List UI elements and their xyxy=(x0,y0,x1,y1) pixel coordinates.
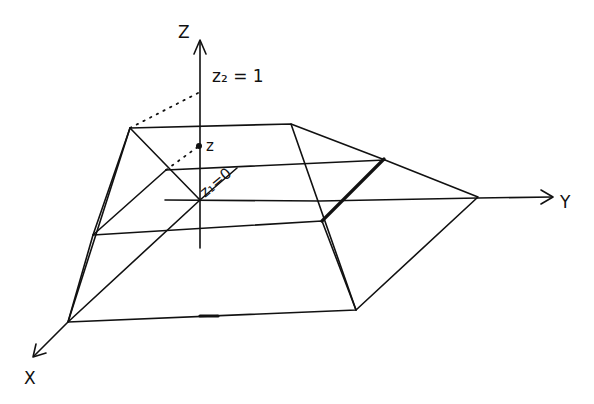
z1-label: z₁=0 xyxy=(196,164,235,201)
x-axis-label: X xyxy=(24,368,36,388)
z-point-projection-line xyxy=(166,146,199,170)
frustum-edges xyxy=(68,124,478,322)
y-axis-label: Y xyxy=(559,192,571,212)
y-axis xyxy=(165,190,553,204)
z2-label: z₂ = 1 xyxy=(212,66,264,86)
z-point-label: z xyxy=(206,137,214,155)
z2-projection-line xyxy=(130,92,200,128)
diagram-canvas: Z Y X z₂ = 1 z z₁=0 xyxy=(0,0,594,404)
highlighted-edge xyxy=(322,159,384,221)
z-point xyxy=(196,143,202,149)
z-axis-label: Z xyxy=(178,22,190,42)
